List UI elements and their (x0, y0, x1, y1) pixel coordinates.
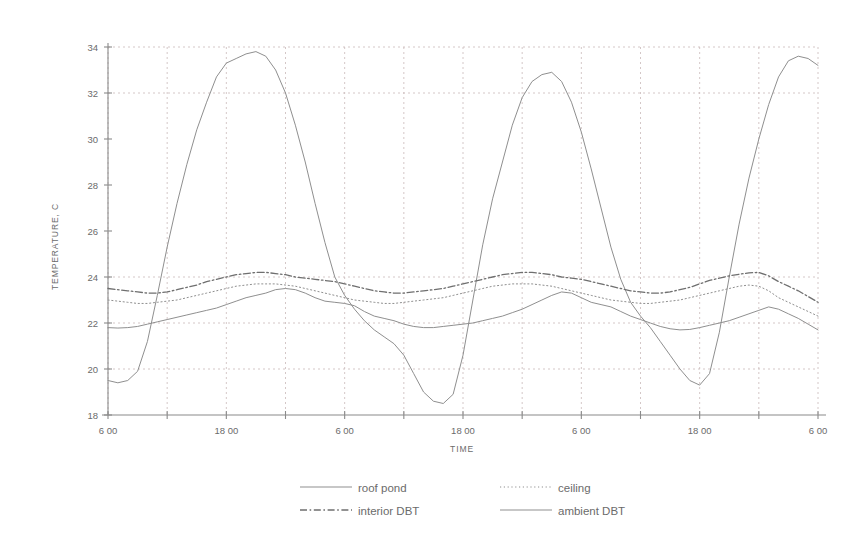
y-tick-label: 26 (87, 226, 98, 237)
y-axis-title: TEMPERATURE, C (50, 203, 60, 290)
temperature-time-chart: 182022242628303234 6 0018 006 0018 006 0… (0, 0, 858, 540)
chart-canvas: 182022242628303234 6 0018 006 0018 006 0… (0, 0, 858, 540)
legend-label-ambient-dbt: ambient DBT (558, 505, 625, 517)
x-tick-label: 6 00 (809, 425, 828, 436)
y-tick-label: 32 (87, 88, 98, 99)
y-tick-label: 24 (87, 272, 98, 283)
x-tick-label: 6 00 (572, 425, 591, 436)
y-axis: 182022242628303234 (87, 42, 112, 421)
y-tick-label: 18 (87, 410, 98, 421)
y-tick-label: 28 (87, 180, 98, 191)
x-axis-title: TIME (450, 444, 474, 454)
y-tick-label: 34 (87, 42, 98, 53)
x-axis: 6 0018 006 0018 006 0018 006 00 (99, 411, 828, 436)
x-tick-label: 18 00 (688, 425, 712, 436)
legend-label-ceiling: ceiling (558, 482, 591, 494)
legend-label-interior-dbt: interior DBT (358, 505, 419, 517)
legend-label-roof-pond: roof pond (358, 482, 407, 494)
x-tick-label: 6 00 (335, 425, 354, 436)
axis-titles: TEMPERATURE, C TIME (50, 203, 474, 454)
x-tick-label: 6 00 (99, 425, 118, 436)
x-tick-label: 18 00 (451, 425, 475, 436)
x-tick-label: 18 00 (214, 425, 238, 436)
grid-lines (108, 47, 818, 415)
series-line-ambient-dbt (108, 289, 818, 330)
chart-legend: roof pondceilinginterior DBTambient DBT (300, 482, 625, 517)
y-tick-label: 20 (87, 364, 98, 375)
y-tick-label: 22 (87, 318, 98, 329)
y-tick-label: 30 (87, 134, 98, 145)
